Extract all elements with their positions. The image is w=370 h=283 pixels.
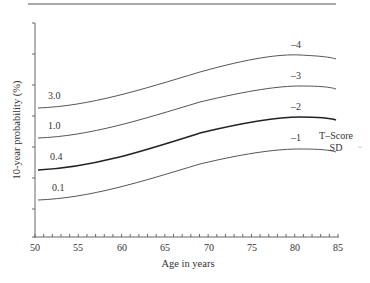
x-axis-label: Age in years	[161, 258, 214, 269]
x-tick-labels: 50 55 60 65 70 75 80 85	[30, 242, 343, 253]
curve-t-score-minus-3	[38, 86, 336, 138]
curve-t-score-minus-1	[38, 149, 336, 200]
curve-label-1-0: 1.0	[48, 120, 61, 131]
chart: 50 55 60 65 70 75 80 85 Age in years 10-…	[0, 0, 370, 283]
x-tick-50: 50	[30, 242, 40, 253]
x-tick-80: 80	[290, 242, 300, 253]
legend-title-sd: SD	[330, 142, 343, 153]
x-tick-60: 60	[117, 242, 127, 253]
curve-t-score-minus-2	[38, 117, 336, 170]
t-score-label-minus-1: –1	[290, 132, 301, 143]
x-tick-65: 65	[160, 242, 170, 253]
stray-mark: =	[358, 143, 362, 151]
t-score-label-minus-3: –3	[290, 70, 301, 81]
x-tick-85: 85	[333, 242, 343, 253]
legend-title-t-score: T–Score	[319, 130, 353, 141]
t-score-label-minus-4: –4	[290, 39, 301, 50]
y-axis-label: 10-year probability (%)	[11, 80, 23, 180]
x-tick-75: 75	[247, 242, 257, 253]
curve-label-0-1: 0.1	[52, 182, 65, 193]
t-score-label-minus-2: –2	[290, 101, 301, 112]
curve-label-0-4: 0.4	[50, 151, 63, 162]
curve-label-3-0: 3.0	[48, 90, 61, 101]
x-tick-70: 70	[204, 242, 214, 253]
x-tick-55: 55	[73, 242, 83, 253]
